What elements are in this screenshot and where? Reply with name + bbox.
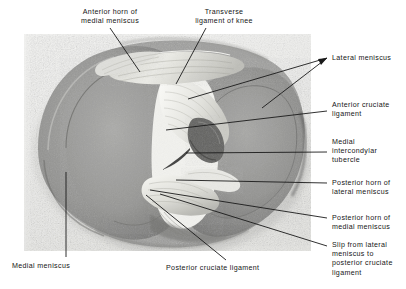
label-lateral-meniscus: Lateral meniscus xyxy=(332,54,406,63)
label-anterior-horn-of-medial-meniscus: Anterior horn of medial meniscus xyxy=(55,8,165,26)
label-transverse-ligament-of-knee: Transverse ligament of knee xyxy=(170,8,278,26)
label-posterior-horn-of-medial-meniscus: Posterior horn of medial meniscus xyxy=(332,214,406,232)
label-anterior-cruciate-ligament: Anterior cruciate ligament xyxy=(332,101,406,119)
label-slip-from-lateral-meniscus-to-posterior-cruciate-ligament: Slip from lateral meniscus to posterior … xyxy=(332,241,406,278)
label-medial-intercondylar-tubercle: Medial intercondylar tubercle xyxy=(332,138,406,166)
anatomical-figure: Anterior horn of medial meniscus Transve… xyxy=(0,0,406,289)
label-posterior-cruciate-ligament: Posterior cruciate ligament xyxy=(166,264,316,273)
photograph-plate xyxy=(24,34,312,256)
label-medial-meniscus: Medial meniscus xyxy=(12,262,122,271)
label-posterior-horn-of-lateral-meniscus: Posterior horn of lateral meniscus xyxy=(332,179,406,197)
